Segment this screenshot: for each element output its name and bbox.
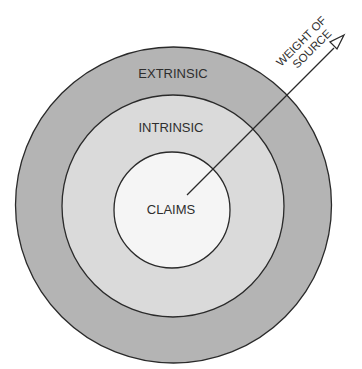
intrinsic-label: INTRINSIC <box>139 120 204 135</box>
claims-label: CLAIMS <box>147 202 196 217</box>
concentric-diagram: EXTRINSIC INTRINSIC CLAIMS WEIGHT OF SOU… <box>0 0 362 369</box>
extrinsic-label: EXTRINSIC <box>138 66 207 81</box>
arrow-label-group: WEIGHT OF SOURCE <box>274 14 338 78</box>
